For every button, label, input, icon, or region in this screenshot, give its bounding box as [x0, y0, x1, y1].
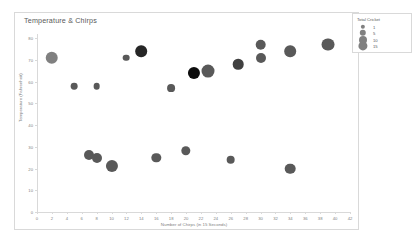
y-tick-mark [35, 125, 37, 126]
x-tick-label: 40 [333, 216, 338, 221]
y-tick-mark [35, 82, 37, 83]
data-point-bubble[interactable] [136, 45, 148, 57]
y-tick-label: 30 [0, 144, 33, 149]
x-tick-mark [305, 212, 306, 214]
y-tick-label: 0 [0, 210, 33, 215]
x-tick-mark [246, 212, 247, 214]
x-tick-mark [201, 212, 202, 214]
y-tick-mark [35, 190, 37, 191]
x-tick-mark [335, 212, 336, 214]
data-point-bubble[interactable] [93, 83, 100, 90]
x-axis-line [37, 212, 351, 213]
x-tick-label: 34 [288, 216, 293, 221]
legend-entry-label: 1 [373, 24, 375, 29]
x-tick-mark [275, 212, 276, 214]
x-tick-label: 32 [273, 216, 278, 221]
x-tick-label: 38 [318, 216, 323, 221]
chart-title: Temperature & Chirps [24, 16, 97, 25]
x-tick-mark [82, 212, 83, 214]
data-point-bubble[interactable] [167, 84, 175, 92]
x-tick-label: 12 [124, 216, 129, 221]
legend: Total Cricket 151015 [352, 13, 412, 53]
x-tick-label: 22 [199, 216, 204, 221]
x-tick-label: 24 [214, 216, 219, 221]
y-tick-mark [35, 38, 37, 39]
x-tick-label: 28 [243, 216, 248, 221]
data-point-bubble[interactable] [285, 45, 297, 57]
x-tick-mark [37, 212, 38, 214]
x-tick-mark [290, 212, 291, 214]
x-tick-label: 0 [36, 216, 38, 221]
chart-screenshot: Temperature & Chirps Temperature (Fahren… [0, 0, 420, 240]
x-tick-label: 20 [184, 216, 189, 221]
data-point-bubble[interactable] [255, 39, 266, 50]
x-tick-mark [261, 212, 262, 214]
legend-entry-label: 5 [373, 31, 375, 36]
x-axis-title: Number of Chirps (in 15 Seconds) [37, 222, 351, 227]
y-tick-mark [35, 169, 37, 170]
data-point-bubble[interactable] [321, 38, 334, 51]
chart-frame [14, 12, 359, 230]
x-tick-mark [171, 212, 172, 214]
y-tick-label: 50 [0, 101, 33, 106]
y-tick-mark [35, 147, 37, 148]
x-tick-label: 16 [154, 216, 159, 221]
x-tick-mark [141, 212, 142, 214]
y-tick-label: 60 [0, 79, 33, 84]
x-tick-label: 4 [66, 216, 68, 221]
x-tick-mark [216, 212, 217, 214]
x-tick-label: 26 [228, 216, 233, 221]
x-tick-label: 10 [109, 216, 114, 221]
x-tick-mark [126, 212, 127, 214]
x-tick-mark [97, 212, 98, 214]
data-point-bubble[interactable] [285, 163, 296, 174]
data-point-bubble[interactable] [92, 153, 102, 163]
data-point-bubble[interactable] [233, 59, 244, 70]
x-tick-label: 30 [258, 216, 263, 221]
x-tick-mark [156, 212, 157, 214]
legend-bubble-icon [361, 24, 365, 28]
x-tick-mark [350, 212, 351, 214]
legend-entry[interactable]: 15 [357, 43, 409, 50]
x-tick-label: 8 [95, 216, 97, 221]
y-tick-label: 80 [0, 36, 33, 41]
legend-title: Total Cricket [357, 17, 380, 22]
y-tick-mark [35, 103, 37, 104]
x-tick-label: 6 [81, 216, 83, 221]
x-tick-mark [112, 212, 113, 214]
y-tick-label: 20 [0, 166, 33, 171]
y-tick-label: 40 [0, 123, 33, 128]
data-point-bubble[interactable] [226, 155, 235, 164]
data-point-bubble[interactable] [256, 53, 266, 63]
x-tick-mark [320, 212, 321, 214]
x-tick-mark [67, 212, 68, 214]
x-tick-mark [186, 212, 187, 214]
x-tick-label: 42 [348, 216, 353, 221]
data-point-bubble[interactable] [71, 83, 78, 90]
y-tick-label: 10 [0, 188, 33, 193]
x-tick-label: 14 [139, 216, 144, 221]
x-tick-mark [52, 212, 53, 214]
data-point-bubble[interactable] [202, 64, 215, 77]
x-tick-label: 36 [303, 216, 308, 221]
data-point-bubble[interactable] [123, 54, 130, 61]
legend-entry-label: 15 [373, 44, 378, 49]
x-tick-label: 2 [51, 216, 53, 221]
legend-entry-label: 10 [373, 37, 378, 42]
data-point-bubble[interactable] [46, 51, 59, 64]
x-tick-label: 18 [169, 216, 174, 221]
y-tick-label: 70 [0, 57, 33, 62]
legend-bubble-icon [358, 42, 367, 51]
x-tick-mark [231, 212, 232, 214]
y-axis-line [37, 34, 38, 213]
y-tick-mark [35, 60, 37, 61]
